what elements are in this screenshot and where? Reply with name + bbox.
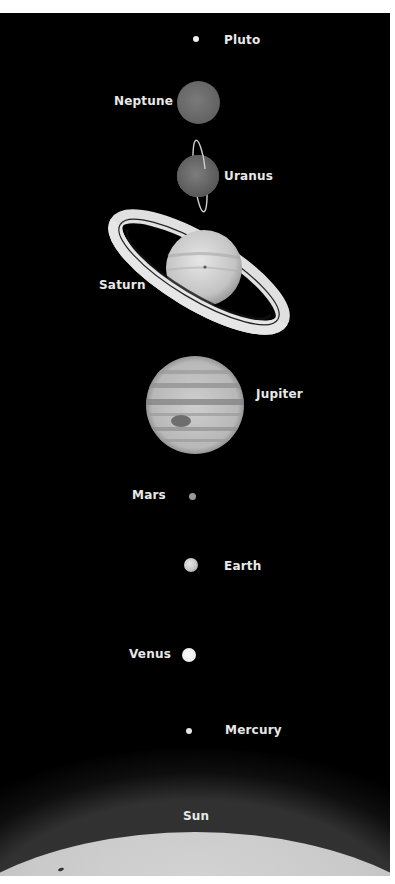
mars-label: Mars <box>132 488 166 502</box>
mercury-body <box>186 728 192 734</box>
uranus-label: Uranus <box>224 169 273 183</box>
mars-body <box>189 493 196 500</box>
jupiter-label: Jupiter <box>256 387 303 401</box>
pluto-label: Pluto <box>224 33 260 47</box>
neptune-label: Neptune <box>114 94 173 108</box>
earth-label: Earth <box>224 559 262 573</box>
jupiter-body <box>145 355 245 455</box>
earth-body <box>184 558 198 572</box>
saturn-body <box>106 206 292 338</box>
uranus-body <box>170 136 230 216</box>
venus-label: Venus <box>129 647 171 661</box>
solar-system-figure: Sun Pluto Neptune Uranus <box>0 13 390 876</box>
sun-label: Sun <box>183 809 209 823</box>
neptune-body <box>177 81 220 124</box>
pluto-body <box>193 36 199 42</box>
saturn-label: Saturn <box>99 278 146 292</box>
mercury-label: Mercury <box>225 723 282 737</box>
venus-body <box>182 648 196 662</box>
